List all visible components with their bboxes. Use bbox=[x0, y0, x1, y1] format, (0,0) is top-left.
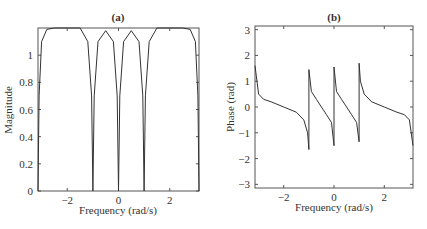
panel-a-ylabel: Magnitude bbox=[2, 86, 14, 134]
y-tick-label: −2 bbox=[238, 153, 250, 165]
panel-a: (a) 00.20.40.60.81 −202 Frequency (rad/s… bbox=[2, 11, 199, 217]
x-tick-label: −2 bbox=[278, 191, 290, 203]
y-tick-label: 0 bbox=[28, 185, 34, 197]
y-tick-label: 0.8 bbox=[19, 76, 33, 88]
y-tick-label: 3 bbox=[245, 24, 251, 36]
y-tick-label: 1 bbox=[28, 49, 34, 61]
y-tick-label: −1 bbox=[238, 127, 250, 139]
panel-b-y-ticks: −3−2−10123 bbox=[238, 24, 413, 191]
x-tick-label: 2 bbox=[167, 194, 173, 206]
y-tick-label: 0.4 bbox=[19, 131, 33, 143]
y-tick-label: 0.2 bbox=[19, 158, 33, 170]
panel-b-ylabel: Phase (rad) bbox=[224, 82, 237, 132]
y-tick-label: 2 bbox=[245, 49, 251, 61]
x-tick-label: −2 bbox=[61, 194, 73, 206]
panel-b-x-ticks: −202 bbox=[278, 26, 387, 203]
x-tick-label: 2 bbox=[382, 191, 388, 203]
panel-b-title: (b) bbox=[327, 11, 341, 24]
panel-a-title: (a) bbox=[112, 11, 125, 24]
panel-a-xlabel: Frequency (rad/s) bbox=[79, 204, 157, 217]
panel-b-xlabel: Frequency (rad/s) bbox=[295, 201, 373, 214]
y-tick-label: 0.6 bbox=[19, 104, 33, 116]
figure: (a) 00.20.40.60.81 −202 Frequency (rad/s… bbox=[0, 0, 427, 229]
panel-a-x-ticks: −202 bbox=[61, 28, 172, 206]
panel-b: (b) −3−2−10123 −202 Frequency (rad/s) Ph… bbox=[224, 11, 413, 214]
y-tick-label: 1 bbox=[245, 75, 251, 87]
y-tick-label: −3 bbox=[238, 178, 250, 190]
magnitude-curve bbox=[38, 28, 199, 191]
phase-curve bbox=[255, 63, 413, 149]
panel-a-y-ticks: 00.20.40.60.81 bbox=[19, 49, 199, 197]
y-tick-label: 0 bbox=[245, 101, 251, 113]
